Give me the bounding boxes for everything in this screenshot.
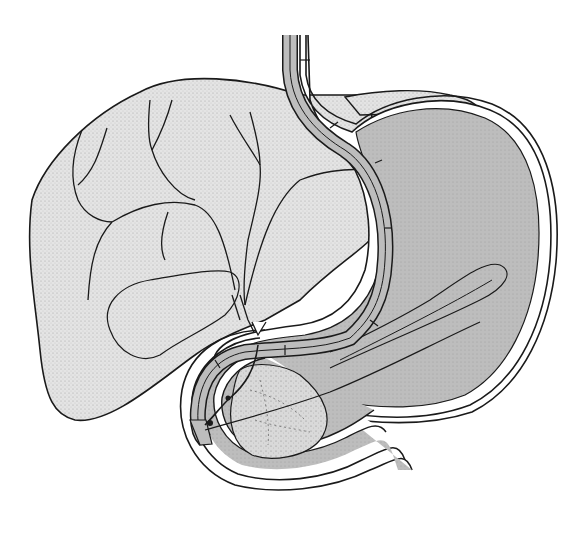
ercp-illustration bbox=[0, 0, 576, 533]
anatomy-drawing bbox=[0, 0, 576, 533]
